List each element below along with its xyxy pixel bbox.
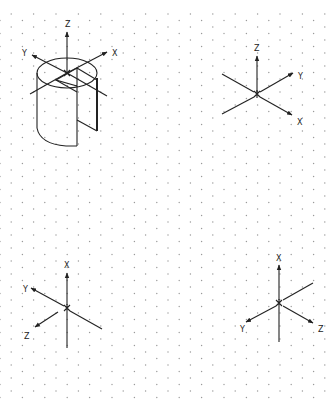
z-axis-label: Z — [24, 332, 30, 341]
y-axis-label: Y — [22, 285, 28, 294]
z-axis-arrow — [283, 306, 313, 323]
x-axis-label: X — [276, 254, 282, 263]
z-axis-label: Z — [254, 44, 260, 53]
x-axis-arrow — [67, 52, 107, 73]
z-axis-label: Z — [65, 20, 71, 29]
triad-top-right — [222, 56, 293, 115]
cylinder-bottom-curve — [37, 128, 77, 146]
slot-top-inner — [56, 80, 77, 92]
isometric-dot-grid — [0, 13, 325, 398]
neg-y-axis-line — [222, 74, 254, 92]
x-axis-label: X — [297, 118, 303, 127]
y-axis-arrow — [31, 288, 64, 306]
y-axis-label: Y — [239, 325, 245, 334]
slot-plate-top — [77, 68, 97, 80]
triad-bottom-right — [246, 265, 313, 342]
y-axis-arrow — [246, 306, 276, 322]
slot-plate-bottom — [77, 120, 97, 131]
origin-star-icon — [276, 299, 282, 307]
x-axis-arrow — [260, 97, 292, 115]
x-axis-label: X — [64, 261, 70, 270]
isometric-diagram: Z Y X Z Y X X Y Z X Y Z — [0, 0, 330, 400]
z-axis-label: Z — [318, 325, 324, 334]
y-axis-label: Y — [21, 49, 27, 58]
origin-star-icon — [254, 90, 260, 98]
x-axis-label: X — [112, 49, 118, 58]
neg-x-axis-line — [222, 97, 254, 114]
neg-y-axis-line — [283, 283, 313, 300]
origin-star-icon — [64, 304, 70, 312]
cylinder-figure — [30, 32, 107, 146]
y-axis-label: Y — [297, 72, 303, 81]
neg-y-axis-line — [70, 311, 102, 329]
triad-bottom-left — [31, 273, 102, 348]
y-axis-arrow — [260, 73, 293, 92]
z-axis-arrow — [35, 312, 58, 327]
